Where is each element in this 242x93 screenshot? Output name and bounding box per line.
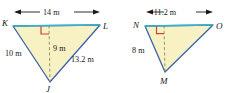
vertex-label-o: O <box>216 21 223 31</box>
vertex-label-k: K <box>1 18 9 28</box>
dimension-11-2m-left-arrow-icon <box>146 10 153 15</box>
altitude-9m-label: 9 m <box>53 44 66 53</box>
triangle-KLJ-shape <box>13 25 100 82</box>
dimension-14m-left-arrow-icon <box>14 10 21 15</box>
side-label-lj: 13.2 m <box>71 55 94 64</box>
triangle-NOM-top-edge <box>145 25 213 26</box>
geometry-diagram-svg: 14 m K L J 10 m 13.2 m 9 m 11.2 m N O <box>0 0 242 93</box>
dimension-11-2m-label: 11.2 m <box>154 8 177 17</box>
dimension-11-2m-right-arrow-icon <box>206 10 213 15</box>
geometry-figure-container: 14 m K L J 10 m 13.2 m 9 m 11.2 m N O <box>0 0 242 93</box>
triangle-NOM-group: 11.2 m N O M 8 m <box>132 8 223 86</box>
triangle-KLJ-group: 14 m K L J 10 m 13.2 m 9 m <box>1 8 108 93</box>
vertex-label-j: J <box>46 84 51 93</box>
vertex-label-m: M <box>159 76 168 86</box>
side-label-kj: 10 m <box>5 49 22 58</box>
dimension-14m-label: 14 m <box>43 8 60 17</box>
side-label-nm: 8 m <box>132 46 145 55</box>
triangle-KLJ-top-edge <box>13 25 100 26</box>
vertex-label-n: N <box>132 20 140 30</box>
vertex-label-l: L <box>102 21 108 31</box>
dimension-14m-right-arrow-icon <box>93 10 100 15</box>
triangle-NOM-shape <box>145 25 213 72</box>
